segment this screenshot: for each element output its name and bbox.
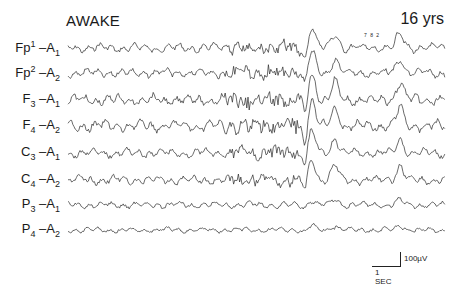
eeg-trace — [68, 99, 445, 146]
eeg-trace — [68, 198, 445, 210]
eeg-trace — [68, 29, 445, 57]
amplitude-scale-line — [400, 252, 401, 267]
time-label: 1 SEC — [375, 268, 391, 286]
eeg-trace — [68, 129, 445, 165]
amplitude-label: 100µV — [404, 254, 427, 263]
eeg-trace — [68, 51, 445, 82]
time-scale-line — [372, 266, 400, 267]
eeg-traces — [0, 0, 460, 293]
eeg-trace — [68, 161, 445, 188]
eeg-trace — [68, 75, 445, 111]
eeg-trace — [68, 224, 445, 234]
